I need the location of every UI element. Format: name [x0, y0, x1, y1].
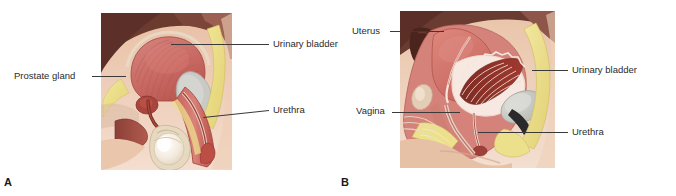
- label-urethra-b: Urethra: [572, 126, 604, 137]
- leader-uterus: [390, 31, 444, 32]
- female-sagittal-illustration: [400, 11, 555, 168]
- label-urinary-bladder-a: Urinary bladder: [273, 38, 338, 49]
- leader-prostate-gland: [92, 76, 126, 77]
- male-sagittal-illustration: [101, 13, 232, 170]
- leader-urinary-bladder-a: [171, 44, 269, 45]
- label-urinary-bladder-b: Urinary bladder: [572, 64, 637, 75]
- label-vagina: Vagina: [356, 105, 385, 116]
- label-prostate-gland: Prostate gland: [14, 70, 75, 81]
- label-urethra-a: Urethra: [273, 104, 305, 115]
- leader-urinary-bladder-b: [532, 70, 568, 71]
- leader-urethra-b: [478, 132, 568, 133]
- anatomy-figure: Prostate gland Urinary bladder Urethra A: [0, 0, 676, 196]
- label-uterus: Uterus: [352, 25, 380, 36]
- leader-vagina: [392, 112, 460, 113]
- panel-letter-b: B: [341, 176, 349, 188]
- panel-b-female: Uterus Vagina Urinary bladder Urethra B: [338, 0, 676, 196]
- panel-letter-a: A: [4, 176, 12, 188]
- panel-a-male: Prostate gland Urinary bladder Urethra A: [0, 0, 338, 196]
